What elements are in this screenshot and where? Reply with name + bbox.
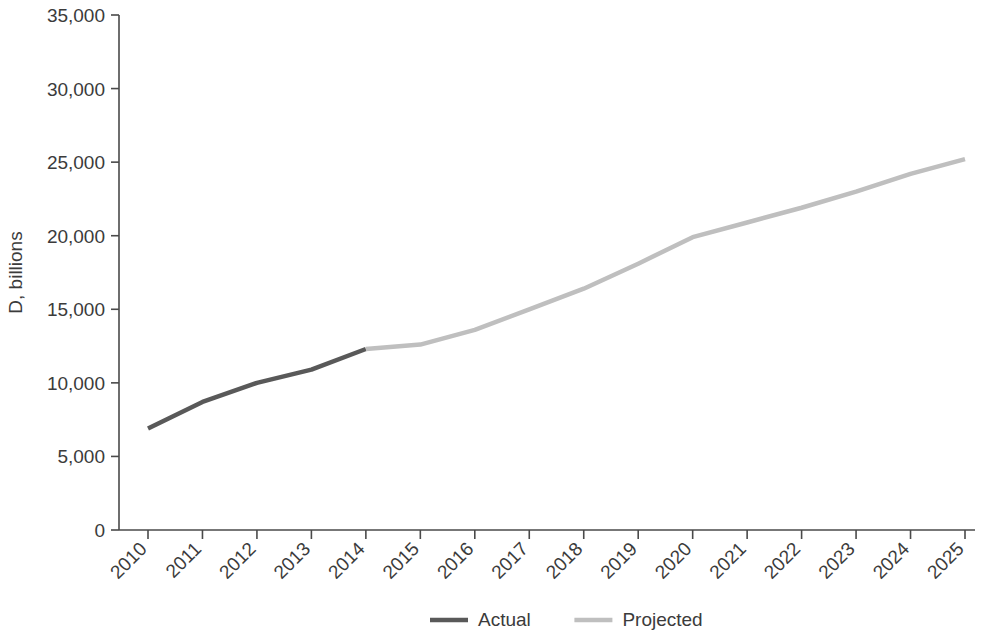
x-tick-label: 2018 bbox=[542, 538, 587, 583]
chart-figure: 05,00010,00015,00020,00025,00030,00035,0… bbox=[0, 0, 989, 637]
x-tick-label: 2020 bbox=[651, 538, 696, 583]
x-tick-label: 2012 bbox=[215, 538, 260, 583]
x-tick-label: 2021 bbox=[705, 538, 750, 583]
x-tick-label: 2011 bbox=[162, 538, 206, 582]
x-tick-label: 2010 bbox=[106, 538, 151, 583]
series-line-projected bbox=[366, 159, 965, 349]
y-axis: 05,00010,00015,00020,00025,00030,00035,0… bbox=[47, 5, 119, 541]
legend-label-actual: Actual bbox=[478, 609, 531, 630]
x-tick-label: 2013 bbox=[269, 538, 314, 583]
x-axis: 2010201120122013201420152016201720182019… bbox=[106, 530, 975, 583]
y-axis-title-label: D, billions bbox=[5, 231, 26, 313]
y-tick-label: 10,000 bbox=[47, 373, 105, 394]
x-tick-label: 2015 bbox=[378, 538, 423, 583]
y-tick-label: 35,000 bbox=[47, 5, 105, 26]
x-tick-label: 2019 bbox=[596, 538, 641, 583]
y-tick-label: 0 bbox=[94, 520, 105, 541]
y-tick-label: 30,000 bbox=[47, 79, 105, 100]
x-tick-label: 2017 bbox=[487, 538, 532, 583]
x-tick-label: 2024 bbox=[869, 538, 914, 583]
x-tick-label: 2023 bbox=[814, 538, 859, 583]
series-line-actual bbox=[148, 349, 366, 428]
y-tick-label: 15,000 bbox=[47, 299, 105, 320]
line-chart: 05,00010,00015,00020,00025,00030,00035,0… bbox=[0, 0, 989, 637]
chart-legend: ActualProjected bbox=[430, 609, 703, 630]
x-tick-label: 2016 bbox=[433, 538, 478, 583]
y-tick-label: 20,000 bbox=[47, 226, 105, 247]
y-tick-label: 5,000 bbox=[57, 446, 105, 467]
y-axis-title: D, billions bbox=[5, 231, 26, 313]
x-tick-label: 2022 bbox=[760, 538, 805, 583]
y-tick-label: 25,000 bbox=[47, 152, 105, 173]
x-tick-label: 2025 bbox=[923, 538, 968, 583]
legend-label-projected: Projected bbox=[622, 609, 702, 630]
x-tick-label: 2014 bbox=[324, 538, 369, 583]
data-series-group bbox=[148, 159, 965, 428]
